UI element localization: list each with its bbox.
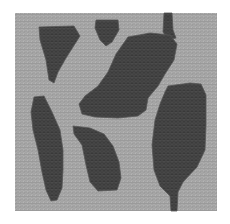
mesh-figure [0, 0, 230, 224]
